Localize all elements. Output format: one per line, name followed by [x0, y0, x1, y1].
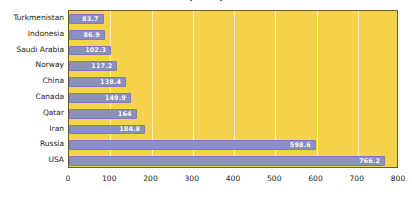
- bar: 86.9: [69, 30, 105, 40]
- x-tick-label: 500: [267, 174, 281, 183]
- category-axis-labels: TurkmenistanIndonesiaSaudi ArabiaNorwayC…: [0, 10, 64, 168]
- category-label: Qatar: [0, 108, 64, 117]
- x-tick-label: 800: [391, 174, 405, 183]
- bar: 138.4: [69, 77, 126, 87]
- bar-row: 138.4: [69, 77, 397, 87]
- bar-row: 766.2: [69, 156, 397, 166]
- category-label: Russia: [0, 139, 64, 148]
- bar-value-label: 138.4: [100, 78, 125, 86]
- category-label: Norway: [0, 60, 64, 69]
- category-label: USA: [0, 155, 64, 164]
- bar: 164: [69, 109, 137, 119]
- bar: 117.2: [69, 61, 117, 71]
- bar-series: 83.786.9102.3117.2138.4149.9164184.8598.…: [69, 11, 397, 167]
- bar: 184.8: [69, 125, 145, 135]
- x-tick-label: 200: [143, 174, 157, 183]
- bar-value-label: 598.6: [290, 141, 315, 149]
- bar-value-label: 164: [118, 110, 136, 118]
- bar-row: 598.6: [69, 140, 397, 150]
- bar-value-label: 149.9: [105, 94, 130, 102]
- bar: 102.3: [69, 46, 111, 56]
- bar-row: 102.3: [69, 46, 397, 56]
- bar-value-label: 184.8: [119, 125, 144, 133]
- x-tick-label: 300: [185, 174, 199, 183]
- bar: 149.9: [69, 93, 131, 103]
- x-tick-label: 600: [308, 174, 322, 183]
- bar-value-label: 86.9: [83, 31, 103, 39]
- bar-row: 117.2: [69, 61, 397, 71]
- bar: 766.2: [69, 156, 385, 166]
- bar-row: 86.9: [69, 30, 397, 40]
- category-label: China: [0, 76, 64, 85]
- bar-value-label: 102.3: [85, 46, 110, 54]
- plot-area: 83.786.9102.3117.2138.4149.9164184.8598.…: [68, 10, 398, 168]
- bar: 83.7: [69, 14, 104, 24]
- bar-row: 149.9: [69, 93, 397, 103]
- bar-row: 164: [69, 109, 397, 119]
- bar-value-label: 117.2: [91, 62, 116, 70]
- category-label: Iran: [0, 124, 64, 133]
- bar: 598.6: [69, 140, 316, 150]
- category-label: Saudi Arabia: [0, 45, 64, 54]
- chart-title: (2019): [0, 0, 412, 2]
- bar-value-label: 766.2: [359, 157, 384, 165]
- chart-root: (2019) TurkmenistanIndonesiaSaudi Arabia…: [0, 0, 412, 198]
- x-tick-label: 0: [66, 174, 71, 183]
- category-label: Turkmenistan: [0, 13, 64, 22]
- x-tick-label: 700: [350, 174, 364, 183]
- x-tick-label: 100: [102, 174, 116, 183]
- bar-row: 184.8: [69, 125, 397, 135]
- category-label: Canada: [0, 92, 64, 101]
- bar-value-label: 83.7: [82, 15, 102, 23]
- gridline: [399, 11, 400, 167]
- bar-row: 83.7: [69, 14, 397, 24]
- category-label: Indonesia: [0, 29, 64, 38]
- x-tick-label: 400: [226, 174, 240, 183]
- x-axis: 0100200300400500600700800: [68, 170, 398, 188]
